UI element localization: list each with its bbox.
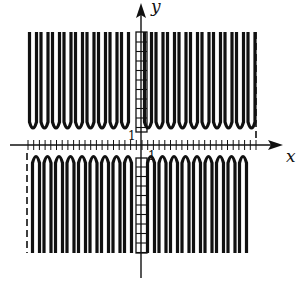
function-graph: x y 1 1	[0, 0, 298, 291]
y-axis-label: y	[150, 0, 161, 16]
x-axis-label: x	[286, 146, 296, 166]
x-tick-label-1: 1	[148, 149, 156, 163]
y-tick-label-1: 1	[128, 129, 136, 143]
